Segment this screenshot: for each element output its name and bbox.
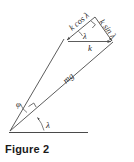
force-diagram: k cos λ k sin λ k mg φ λ λ xyxy=(0,0,134,140)
label-lambda-apex: λ xyxy=(82,31,87,41)
right-angle-apex-icon xyxy=(91,21,95,28)
label-k-cos-lambda: k cos λ xyxy=(67,10,91,33)
mg-line xyxy=(10,42,113,131)
angle-arc-lambda-ground xyxy=(38,118,45,131)
pivot-lines xyxy=(9,39,113,133)
figure-container: k cos λ k sin λ k mg φ λ λ Figure 2 xyxy=(0,0,134,162)
label-k-sin-lambda: k sin λ xyxy=(97,17,118,40)
label-phi: φ xyxy=(16,99,21,109)
label-k: k xyxy=(88,43,93,53)
plumb-line xyxy=(10,39,64,131)
label-mg: mg xyxy=(61,70,76,85)
angle-arc-lambda-apex xyxy=(79,32,83,37)
figure-caption: Figure 2 xyxy=(5,143,49,155)
right-angle-pivot-icon xyxy=(29,103,37,107)
label-lambda-ground: λ xyxy=(45,120,50,130)
